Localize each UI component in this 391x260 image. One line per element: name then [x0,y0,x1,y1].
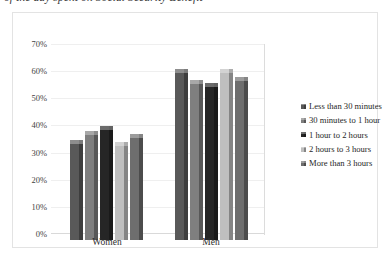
bar-shadow-side [199,80,203,240]
y-axis-tick-50: 50% [31,94,47,103]
plot-right-edge [264,44,265,235]
bar-women-series-1 [70,140,83,240]
bar-top-highlight [115,142,128,146]
chart-frame: 70%60%50%40%30%20%10%0% Women Men Less t… [12,12,378,248]
legend-swatch-top [301,147,306,149]
y-axis-tick-40: 40% [31,121,47,130]
bar-women-series-2 [85,131,98,240]
plot-area: Women Men [51,31,264,241]
y-axis-tick-0: 0% [36,230,47,239]
bar-shadow-side [229,69,233,240]
y-axis-tick-70: 70% [31,40,47,49]
legend-swatch-top [301,161,306,163]
legend-item-label: 30 minutes to 1 hour [309,116,380,125]
bar-shadow-side [109,126,113,240]
y-axis-tick-30: 30% [31,148,47,157]
bar-top-highlight [220,69,233,73]
legend-swatch-icon [301,132,306,137]
legend-swatch-icon [301,147,306,152]
bar-top-highlight [205,83,218,87]
legend-item-label: 1 hour to 2 hours [309,131,368,140]
legend-swatch-top [301,104,306,106]
legend-item-5[interactable]: More than 3 hours [301,157,391,171]
gridline-70 [51,44,264,45]
bar-men-series-5 [235,77,248,240]
bar-shadow-side [79,140,83,240]
y-axis-tick-20: 20% [31,175,47,184]
x-axis-label-men: Men [163,237,259,247]
chart-legend: Less than 30 minutes30 minutes to 1 hour… [301,99,391,171]
bar-group-men [175,51,248,240]
legend-item-label: Less than 30 minutes [309,102,382,111]
bar-shadow-side [214,83,218,240]
legend-item-2[interactable]: 30 minutes to 1 hour [301,113,391,127]
bar-top-highlight [175,69,188,73]
legend-item-label: 2 hours to 3 hours [309,145,371,154]
legend-item-label: More than 3 hours [309,159,372,168]
bar-women-series-4 [115,142,128,240]
legend-swatch-icon [301,161,306,166]
legend-item-3[interactable]: 1 hour to 2 hours [301,128,391,142]
bar-women-series-3 [100,126,113,240]
y-axis-tick-60: 60% [31,67,47,76]
y-axis-tick-10: 10% [31,203,47,212]
bar-shadow-side [139,134,143,240]
bar-men-series-4 [220,69,233,240]
bar-top-highlight [85,131,98,135]
y-axis-tick-labels: 70%60%50%40%30%20%10%0% [13,31,47,241]
bar-women-series-5 [130,134,143,240]
chart-title: of the day spent on Social Security Bene… [4,0,334,5]
bar-shadow-side [244,77,248,240]
legend-swatch-top [301,132,306,134]
legend-swatch-icon [301,118,306,123]
legend-item-4[interactable]: 2 hours to 3 hours [301,142,391,156]
bar-top-highlight [130,134,143,138]
bar-top-highlight [235,77,248,81]
legend-swatch-top [301,118,306,120]
bar-men-series-3 [205,83,218,240]
bar-group-women [70,51,143,240]
bar-men-series-2 [190,80,203,240]
x-axis-label-women: Women [59,237,155,247]
bar-shadow-side [124,142,128,240]
legend-swatch-icon [301,104,306,109]
bar-shadow-side [94,131,98,240]
bar-top-highlight [70,140,83,144]
bar-men-series-1 [175,69,188,240]
legend-item-1[interactable]: Less than 30 minutes [301,99,391,113]
bar-top-highlight [100,126,113,130]
bar-shadow-side [184,69,188,240]
bar-top-highlight [190,80,203,84]
